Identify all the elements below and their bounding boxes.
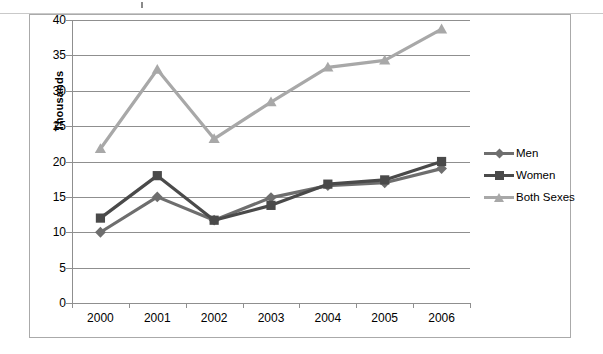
legend-item-women[interactable]: Women — [484, 164, 574, 186]
plot-area: 0510152025303540 20002001200220032004200… — [72, 20, 470, 303]
clipped-text-fragment — [141, 2, 143, 8]
x-tick-label: 2000 — [70, 312, 130, 324]
data-point-marker — [96, 214, 105, 223]
diamond-marker-icon — [495, 149, 505, 159]
y-tick-label: 10 — [28, 226, 66, 238]
triangle-marker-icon — [494, 193, 504, 202]
data-series-layer — [72, 20, 470, 304]
y-tick-label: 35 — [28, 49, 66, 61]
x-tick-label: 2006 — [412, 312, 472, 324]
legend-label: Men — [514, 147, 538, 159]
x-tick-label: 2002 — [184, 312, 244, 324]
series-line — [100, 29, 441, 149]
x-tick-label: 2004 — [298, 312, 358, 324]
y-tick-label: 20 — [28, 156, 66, 168]
legend-key-swatch — [484, 191, 514, 203]
x-tick-label: 2005 — [355, 312, 415, 324]
chart-legend: MenWomenBoth Sexes — [484, 142, 574, 208]
y-tick-label: 30 — [28, 85, 66, 97]
legend-item-both-sexes[interactable]: Both Sexes — [484, 186, 574, 208]
x-axis-tick — [470, 303, 471, 308]
data-point-marker — [153, 171, 162, 180]
y-tick-label: 25 — [28, 120, 66, 132]
legend-item-men[interactable]: Men — [484, 142, 574, 164]
legend-label: Women — [514, 169, 555, 181]
legend-key-swatch — [484, 169, 514, 181]
data-point-marker — [323, 180, 332, 189]
series-women — [96, 157, 446, 225]
y-tick-label: 5 — [28, 262, 66, 274]
y-tick-label: 40 — [28, 14, 66, 26]
x-tick-label: 2001 — [127, 312, 187, 324]
data-point-marker — [437, 157, 446, 166]
chart-screenshot: Thousands 0510152025303540 2000200120022… — [0, 0, 603, 354]
data-point-marker — [152, 64, 163, 74]
series-both-sexes — [95, 24, 447, 153]
y-tick-label: 0 — [28, 297, 66, 309]
square-marker-icon — [495, 171, 504, 180]
x-tick-label: 2003 — [241, 312, 301, 324]
legend-key-swatch — [484, 147, 514, 159]
data-point-marker — [436, 24, 447, 34]
series-line — [100, 162, 441, 221]
y-tick-label: 15 — [28, 191, 66, 203]
legend-label: Both Sexes — [514, 191, 575, 203]
data-point-marker — [380, 175, 389, 184]
data-point-marker — [266, 201, 275, 210]
series-men — [95, 163, 447, 237]
data-point-marker — [210, 216, 219, 225]
